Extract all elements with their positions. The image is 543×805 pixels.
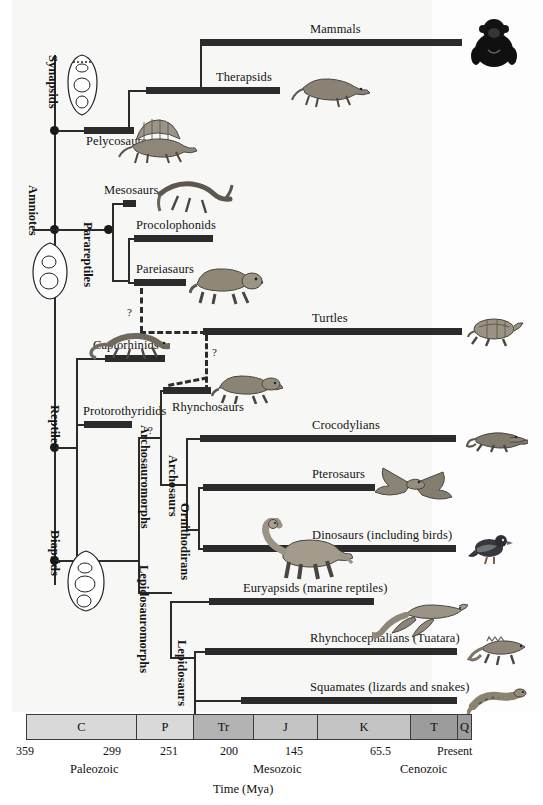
protorothyridids-label: Protorothyridids — [83, 404, 167, 419]
pareiasaurs-bar — [134, 279, 186, 286]
pterosaur-illustration — [371, 466, 453, 508]
diapsid-skull-diagram — [62, 548, 110, 614]
pterosaurs-label: Pterosaurs — [312, 467, 365, 482]
tick-label-present: Present — [437, 744, 472, 759]
period-abbr-C: C — [77, 720, 85, 735]
turtle-origin-dash-vertical-lower — [205, 335, 208, 391]
pareiasaurs-label: Pareiasaurs — [136, 262, 194, 277]
synapsid-skull-diagram — [62, 52, 102, 118]
clade-label-parareptiles: Parareptiles — [80, 222, 95, 287]
squamates-label: Squamates (lizards and snakes) — [310, 680, 470, 695]
mammals-bar — [200, 39, 462, 46]
snake-illustration — [467, 684, 527, 716]
geologic-timescale: C P Tr J K T Q — [26, 714, 472, 740]
tuatara-illustration — [467, 633, 529, 669]
turtles-bar — [203, 328, 462, 335]
pigeon-illustration — [467, 532, 515, 566]
chimpanzee-illustration — [466, 14, 522, 70]
tick-label-145: 145 — [285, 744, 303, 759]
period-segment-J: J — [254, 715, 318, 739]
period-abbr-T: T — [430, 720, 438, 735]
lepidosauromorph-vertical — [170, 601, 172, 659]
dimetrodon-illustration — [118, 118, 200, 168]
question-mark-upper: ? — [127, 306, 132, 318]
archosauromorph-vertical — [160, 390, 162, 485]
protorothyridids-bar — [84, 421, 132, 428]
tick-label-359: 359 — [16, 744, 34, 759]
crocodylians-bar — [200, 435, 456, 442]
procolophonids-bar — [134, 235, 213, 242]
phylogeny-figure: Pelycosaurs Therapsids Mammals Mesosaurs… — [0, 0, 543, 805]
therapsids-label: Therapsids — [216, 70, 272, 85]
mammals-stem-vertical — [200, 41, 202, 90]
therapsids-bar — [146, 87, 280, 94]
clade-label-amniotes: Amniotes — [25, 185, 40, 236]
turtle-illustration — [467, 315, 525, 347]
mesosaurs-label: Mesosaurs — [104, 183, 158, 198]
period-abbr-P: P — [162, 720, 169, 735]
era-label-cenozoic: Cenozoic — [400, 762, 447, 777]
rhynchosaurs-bar — [163, 387, 211, 394]
tick-label-65-5: 65.5 — [370, 744, 391, 759]
turtles-label: Turtles — [312, 311, 348, 326]
mammals-label: Mammals — [310, 22, 361, 37]
pareiasaur-illustration — [189, 262, 265, 306]
tick-label-200: 200 — [220, 744, 238, 759]
era-label-paleozoic: Paleozoic — [70, 762, 119, 777]
captorhinid-illustration — [88, 330, 170, 362]
period-segment-P: P — [137, 715, 194, 739]
reptile-to-diapsid-vertical — [76, 447, 78, 562]
therapsid-stem-horizontal — [128, 90, 148, 92]
rhynchocephalians-bar — [205, 648, 457, 655]
period-segment-T: T — [411, 715, 458, 739]
period-abbr-K: K — [359, 720, 368, 735]
procolophonid-pareiasaur-vertical — [128, 238, 130, 283]
mesosaur-illustration — [156, 178, 234, 224]
clade-label-lepidosauromorphs: Lepidosauromorphs — [136, 565, 151, 673]
era-label-mesozoic: Mesozoic — [253, 762, 302, 777]
period-abbr-Tr: Tr — [218, 720, 229, 735]
turtle-origin-dash-vertical-upper — [140, 288, 143, 332]
period-segment-K: K — [318, 715, 411, 739]
anapsid-skull-diagram — [28, 240, 72, 302]
lepidosaurs-vertical — [194, 651, 196, 719]
tick-label-251: 251 — [160, 744, 178, 759]
pterosaurs-bar — [203, 484, 375, 491]
crocodile-illustration — [466, 424, 528, 454]
crocodylians-label: Crocodylians — [312, 418, 380, 433]
question-mark-lower: ? — [212, 346, 217, 358]
mesosaurs-vertical — [112, 203, 114, 230]
ornithodiran-vertical — [198, 487, 200, 549]
clade-label-reptiles: Reptiles — [47, 405, 62, 448]
synapsid-stem — [58, 130, 84, 132]
period-abbr-Q: Q — [460, 720, 469, 735]
parareptile-inner-vertical — [112, 229, 114, 282]
clade-label-synapsids: Synapsids — [45, 55, 60, 109]
clade-label-lepidosaurs: Lepidosaurs — [174, 640, 189, 706]
mesosaurs-bar — [123, 200, 136, 207]
period-segment-Tr: Tr — [194, 715, 254, 739]
rhynchosaur-illustration — [211, 370, 283, 404]
period-segment-C: C — [27, 715, 137, 739]
squamates-bar — [241, 697, 457, 704]
clade-label-ornithodirans: Ornithodirans — [177, 503, 192, 580]
squamates-stem — [194, 700, 244, 702]
euryapsids-label: Euryapsids (marine reptiles) — [243, 581, 387, 596]
cynodont-illustration — [291, 70, 371, 108]
euryapsids-stem — [170, 601, 212, 603]
tick-label-299: 299 — [103, 744, 121, 759]
clade-label-diapsids: Diapsids — [47, 530, 62, 576]
euryapsids-bar — [209, 598, 374, 605]
clade-label-archosauromorphs: Archosauromorphs — [137, 425, 152, 529]
plesiosaur-illustration — [372, 592, 468, 644]
period-segment-Q: Q — [458, 715, 471, 739]
axis-title: Time (Mya) — [213, 782, 273, 797]
sauropod-illustration — [253, 518, 353, 580]
period-abbr-J: J — [283, 720, 288, 735]
